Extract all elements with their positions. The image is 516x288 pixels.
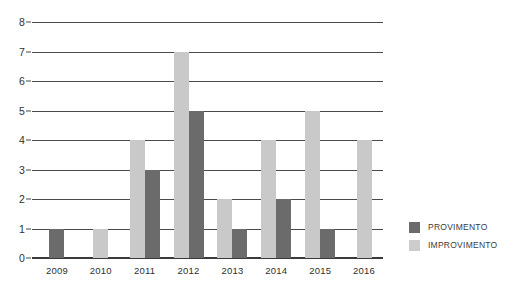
gridline [32, 22, 383, 23]
y-axis-tick [26, 110, 31, 111]
y-axis-tick [26, 228, 31, 229]
bar-2015-provimento [320, 229, 335, 259]
bar-2014-provimento [276, 199, 291, 258]
gridline [32, 111, 383, 112]
y-axis-label: 1 [19, 223, 25, 234]
y-axis-label: 3 [19, 164, 25, 175]
gridline [32, 52, 383, 53]
bar-2014-improvimento [261, 140, 276, 258]
x-axis-label-2009: 2009 [46, 266, 68, 276]
legend-label-improvimento: IMPROVIMENTO [428, 241, 497, 250]
y-axis-label: 2 [19, 194, 25, 205]
y-axis-tick [26, 51, 31, 52]
x-axis-label-2014: 2014 [265, 266, 287, 276]
legend-swatch-provimento [409, 222, 420, 233]
bar-2011-provimento [145, 170, 160, 259]
legend-item-provimento: PROVIMENTO [409, 222, 497, 233]
bar-2012-improvimento [174, 52, 189, 259]
chart-legend: PROVIMENTO IMPROVIMENTO [409, 222, 497, 251]
y-axis-label: 5 [19, 105, 25, 116]
y-axis-label: 7 [19, 46, 25, 57]
gridline [32, 81, 383, 82]
gridline [32, 199, 383, 200]
y-axis-tick [26, 22, 31, 23]
y-axis-tick [26, 199, 31, 200]
plot-area: 012345678 200920102011201220132014201520… [32, 22, 383, 258]
bar-2015-improvimento [305, 111, 320, 259]
gridline [32, 170, 383, 171]
bar-2012-provimento [189, 111, 204, 259]
x-axis-label-2011: 2011 [134, 266, 155, 276]
y-axis-label: 0 [19, 253, 25, 264]
y-axis-label: 8 [19, 17, 25, 28]
x-axis-label-2013: 2013 [221, 266, 243, 276]
x-axis-label-2010: 2010 [90, 266, 112, 276]
y-axis-tick [26, 81, 31, 82]
y-axis-tick [26, 258, 31, 259]
bar-chart: 012345678 200920102011201220132014201520… [0, 0, 516, 288]
bar-2010-improvimento [93, 229, 108, 259]
bar-2013-improvimento [217, 199, 232, 258]
y-axis-label: 6 [19, 76, 25, 87]
bar-2011-improvimento [130, 140, 145, 258]
legend-label-provimento: PROVIMENTO [428, 223, 488, 232]
bar-2009-provimento [49, 229, 64, 259]
gridline [32, 140, 383, 141]
y-axis-tick [26, 169, 31, 170]
x-axis-label-2015: 2015 [309, 266, 331, 276]
bar-2016-improvimento [357, 140, 372, 258]
y-axis-tick [26, 140, 31, 141]
y-axis-label: 4 [19, 135, 25, 146]
x-axis-label-2012: 2012 [178, 266, 200, 276]
legend-swatch-improvimento [409, 240, 420, 251]
x-axis-label-2016: 2016 [353, 266, 375, 276]
legend-item-improvimento: IMPROVIMENTO [409, 240, 497, 251]
bar-2013-provimento [232, 229, 247, 259]
